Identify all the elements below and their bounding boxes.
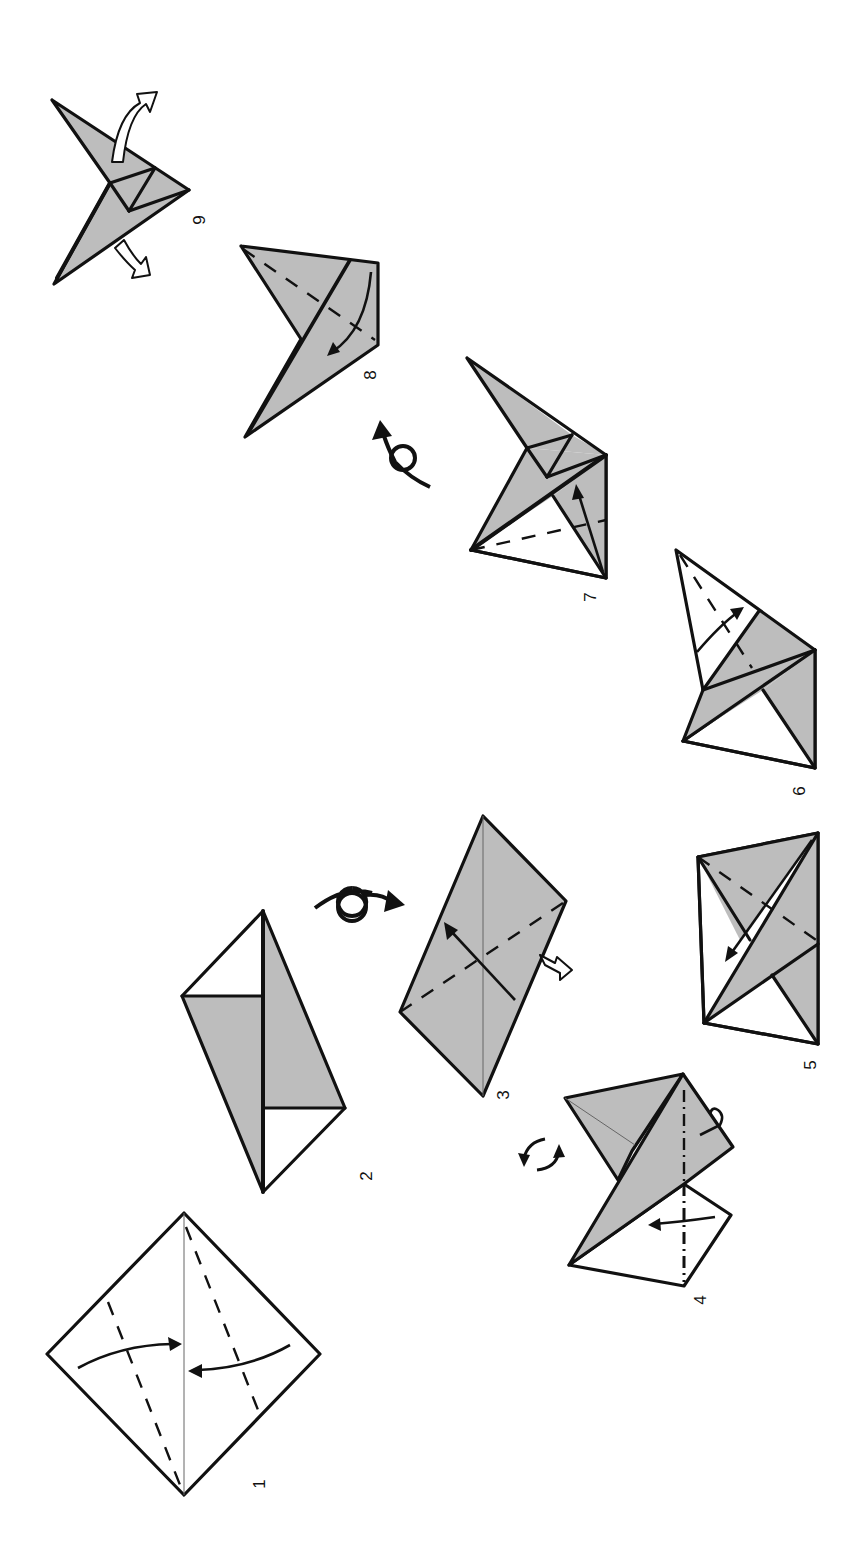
arrowhead-icon [518,1153,530,1167]
step-number: 4 [691,1295,710,1304]
turn-over-symbol-2 [372,420,430,487]
step-number: 8 [361,370,380,379]
step-3: 3 [400,816,572,1100]
step-7: 7 [467,358,606,602]
step-2: 2 [182,911,376,1192]
step-number: 2 [357,1171,376,1180]
push-arrow-icon [540,955,572,980]
step-number: 9 [190,215,209,224]
step-6: 6 [676,550,815,796]
step-number: 1 [250,1479,269,1488]
step-8: 8 [241,246,380,437]
step-number: 5 [801,1060,820,1069]
pull-apart-arrow-up-icon [112,92,157,162]
step-5: 5 [698,833,820,1070]
origami-diagram: 1 2 3 4 [0,0,867,1568]
turn-over-symbol [315,888,405,921]
step-number: 7 [581,592,600,601]
arrowhead-icon [384,890,405,912]
arrowhead-icon [372,420,392,440]
rotate-symbol [518,1139,565,1170]
step-number: 3 [494,1090,513,1099]
step-9: 9 [52,92,209,284]
pull-apart-arrow-down-icon [115,240,150,278]
step-4: 4 [565,1074,733,1305]
step-1: 1 [47,1213,320,1495]
step-number: 6 [790,786,809,795]
arrowhead-icon [553,1144,565,1158]
